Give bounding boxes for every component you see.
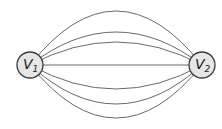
node-v1: V1	[17, 52, 43, 78]
multigraph-diagram: V1 V2	[0, 0, 222, 129]
edge-7	[30, 65, 202, 118]
edges-group	[30, 11, 202, 118]
edge-3	[30, 42, 202, 65]
node-v2: V2	[189, 52, 215, 78]
edge-6	[30, 65, 202, 104]
edge-1	[30, 11, 202, 65]
